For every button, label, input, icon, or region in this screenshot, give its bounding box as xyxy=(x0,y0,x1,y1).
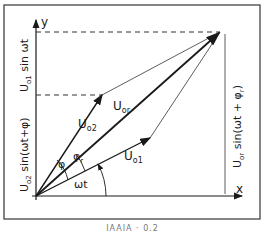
arc-omega-t xyxy=(98,164,106,196)
y-axis-label: y xyxy=(41,15,48,29)
phasor-diagram: y x Uo1 Uo2 Uor ωt φ φr Uo1 sin ωt Uo2 s… xyxy=(0,0,265,232)
label-u-or-sin: Uor sin(ωt + φr) xyxy=(231,85,246,168)
label-phi-r: φr xyxy=(73,150,83,165)
label-u-o2-sin: Uo2 sin(ωt+φ) xyxy=(18,117,33,192)
label-u-o1-sin: Uo1 sin ωt xyxy=(18,38,33,92)
label-u-o1: Uo1 xyxy=(124,149,143,165)
x-axis-label: x xyxy=(236,182,243,196)
label-u-or: Uor xyxy=(113,99,131,115)
label-omega-t: ωt xyxy=(74,178,88,191)
label-phi: φ xyxy=(58,158,65,171)
vector-u-o1 xyxy=(36,138,150,196)
figure-caption: IAAIA · 0.2 xyxy=(0,224,265,232)
label-u-o2: Uo2 xyxy=(78,117,97,133)
